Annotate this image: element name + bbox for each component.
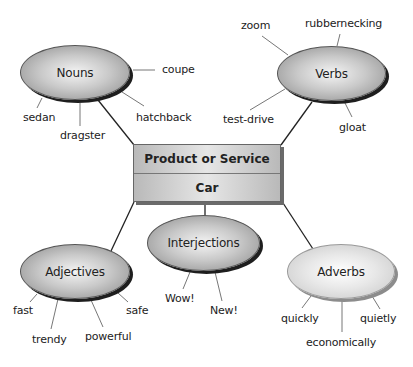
connector-verbs	[281, 102, 312, 145]
leaf-safe: safe	[126, 304, 148, 317]
leaf-hatchback: hatchback	[136, 111, 191, 124]
connector-adjectives	[111, 202, 134, 251]
leaf-fast: fast	[13, 304, 33, 317]
node-adverbs-label: Adverbs	[317, 265, 365, 279]
mind-map-diagram: Nouns coupe sedan dragster hatchback Ver…	[0, 0, 413, 367]
leaf-dragster: dragster	[60, 129, 105, 142]
leaf-economically: economically	[306, 336, 376, 349]
node-interjections: Interjections	[147, 215, 260, 271]
node-adverbs: Adverbs	[287, 244, 395, 299]
leaf-quietly: quietly	[360, 312, 396, 325]
leaf-trendy: trendy	[32, 333, 67, 346]
node-nouns-label: Nouns	[57, 66, 94, 80]
node-verbs-label: Verbs	[315, 67, 347, 81]
leaf-new: New!	[210, 304, 238, 317]
leaf-powerful: powerful	[85, 330, 131, 343]
center-value: Car	[134, 174, 280, 202]
center-title: Product or Service	[134, 145, 280, 173]
leaf-sedan: sedan	[23, 111, 55, 124]
leaf-zoom: zoom	[241, 19, 270, 32]
leaf-quickly: quickly	[281, 312, 319, 325]
node-adjectives: Adjectives	[20, 244, 130, 299]
leaf-gloat: gloat	[339, 121, 366, 134]
node-nouns: Nouns	[20, 45, 130, 100]
leaf-test-drive: test-drive	[223, 113, 274, 126]
node-interjections-label: Interjections	[167, 236, 239, 250]
connector-adverbs	[283, 203, 313, 249]
leaf-coupe: coupe	[162, 63, 195, 76]
leaf-rubbernecking: rubbernecking	[305, 17, 382, 30]
node-adjectives-label: Adjectives	[45, 265, 105, 279]
leaf-wow: Wow!	[165, 292, 195, 305]
center-box: Product or Service Car	[133, 144, 281, 202]
node-verbs: Verbs	[277, 46, 386, 101]
